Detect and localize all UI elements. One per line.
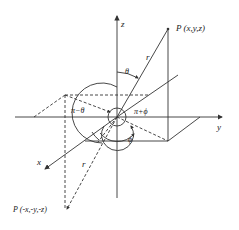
r-label-lower: r [82, 159, 86, 169]
dashed-r-vector-reflected [67, 117, 117, 209]
y-axis-label: y [216, 122, 221, 132]
lower-arc [92, 132, 99, 140]
pi-minus-theta-label: π−θ [71, 106, 84, 115]
point-p-label: P (x,y,z) [175, 23, 205, 33]
dashed-inner-line [98, 117, 117, 142]
z-axis-label: z [120, 19, 125, 29]
dashed-left-diagonal [34, 95, 65, 117]
x-axis-label: x [36, 157, 41, 167]
xy-projection-side [168, 117, 200, 141]
spherical-coordinates-diagram: z y x P (x,y,z) P (-x,-y,-z) r r θ π−θ π… [0, 0, 239, 230]
point-p-prime-label: P (-x,-y,-z) [12, 205, 47, 214]
phi-label: ϕ [128, 135, 132, 144]
pi-plus-phi-label: π+ϕ [134, 107, 148, 116]
dashed-projection-to-p [117, 117, 168, 141]
x-axis [45, 117, 117, 169]
theta-label: θ [125, 67, 129, 76]
r-label-upper: r [146, 52, 150, 62]
